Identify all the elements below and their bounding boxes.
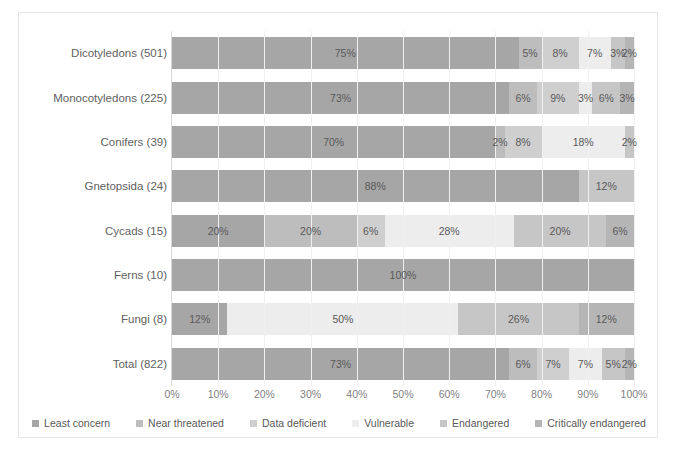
chart-container: Dicotyledons (501)Monocotyledons (225)Co…	[18, 12, 658, 438]
bar-segment-label: 6%	[516, 358, 531, 370]
bar-segment-label: 7%	[578, 358, 593, 370]
bar-segment: 3%	[579, 82, 593, 114]
x-axis-tick-label: 90%	[577, 388, 598, 400]
bar-segment: 2%	[625, 37, 634, 69]
chart-legend: Least concernNear threatenedData deficie…	[19, 411, 659, 435]
gridline	[218, 31, 219, 386]
bar-segment: 6%	[509, 348, 537, 380]
legend-swatch-icon	[136, 420, 143, 427]
bar-segment: 50%	[227, 303, 458, 335]
bar-segment: 8%	[542, 37, 579, 69]
category-label: Cycads (15)	[27, 215, 167, 247]
x-axis-tick-label: 0%	[164, 388, 179, 400]
category-label: Gnetopsida (24)	[27, 170, 167, 202]
bar-segment: 7%	[579, 37, 611, 69]
bar-segment-label: 20%	[550, 225, 571, 237]
x-axis: 0%10%20%30%40%50%60%70%80%90%100%	[172, 388, 634, 406]
bar-segment: 70%	[172, 126, 495, 158]
legend-swatch-icon	[352, 420, 359, 427]
bar-segment-label: 12%	[189, 313, 210, 325]
bar-segment-label: 12%	[596, 313, 617, 325]
bar-segment-label: 70%	[323, 136, 344, 148]
bar-segment-label: 26%	[508, 313, 529, 325]
bar-segment-label: 100%	[390, 269, 417, 281]
x-axis-tick-label: 60%	[439, 388, 460, 400]
bar-segment: 9%	[537, 82, 579, 114]
bar-segment: 3%	[620, 82, 634, 114]
bar-segment-label: 6%	[363, 225, 378, 237]
gridline	[357, 31, 358, 386]
bar-segment-label: 6%	[516, 92, 531, 104]
bar-segment-label: 5%	[606, 358, 621, 370]
bar-segment-label: 3%	[619, 92, 634, 104]
gridline	[542, 31, 543, 386]
legend-item[interactable]: Near threatened	[136, 417, 224, 429]
bar-segment: 75%	[172, 37, 519, 69]
legend-item[interactable]: Endangered	[440, 417, 509, 429]
bar-segment: 18%	[542, 126, 625, 158]
legend-swatch-icon	[535, 420, 542, 427]
gridline	[311, 31, 312, 386]
x-axis-tick-label: 30%	[300, 388, 321, 400]
legend-item[interactable]: Critically endangered	[535, 417, 646, 429]
bar-segment-label: 8%	[516, 136, 531, 148]
bar-segment-label: 12%	[596, 180, 617, 192]
bar-segment-label: 20%	[300, 225, 321, 237]
bar-segment: 7%	[569, 348, 601, 380]
category-label: Fungi (8)	[27, 303, 167, 335]
bar-segment: 2%	[625, 348, 634, 380]
gridline	[403, 31, 404, 386]
bar-segment: 26%	[458, 303, 578, 335]
legend-label: Data deficient	[262, 417, 326, 429]
x-axis-tick-label: 80%	[531, 388, 552, 400]
legend-label: Critically endangered	[547, 417, 646, 429]
legend-item[interactable]: Vulnerable	[352, 417, 414, 429]
legend-swatch-icon	[440, 420, 447, 427]
bar-segment-label: 7%	[546, 358, 561, 370]
bar-segment-label: 2%	[492, 136, 507, 148]
y-axis-category-labels: Dicotyledons (501)Monocotyledons (225)Co…	[19, 31, 167, 386]
legend-swatch-icon	[250, 420, 257, 427]
bar-segment: 6%	[509, 82, 537, 114]
legend-label: Vulnerable	[364, 417, 414, 429]
bar-segment: 5%	[519, 37, 542, 69]
legend-label: Near threatened	[148, 417, 224, 429]
bar-segment-label: 2%	[622, 358, 637, 370]
bar-segment: 6%	[357, 215, 385, 247]
bar-segment-label: 8%	[552, 47, 567, 59]
gridline	[634, 31, 635, 386]
bar-segment: 6%	[592, 82, 620, 114]
bar-segment: 2%	[495, 126, 504, 158]
category-label: Total (822)	[27, 348, 167, 380]
legend-label: Endangered	[452, 417, 509, 429]
legend-item[interactable]: Least concern	[32, 417, 110, 429]
legend-item[interactable]: Data deficient	[250, 417, 326, 429]
legend-label: Least concern	[44, 417, 110, 429]
bar-segment: 2%	[625, 126, 634, 158]
bar-segment: 73%	[172, 82, 509, 114]
gridline	[449, 31, 450, 386]
legend-swatch-icon	[32, 420, 39, 427]
bar-segment-label: 6%	[613, 225, 628, 237]
bar-segment-label: 6%	[599, 92, 614, 104]
x-axis-tick-label: 70%	[485, 388, 506, 400]
bar-segment-label: 73%	[330, 92, 351, 104]
bar-segment: 20%	[514, 215, 606, 247]
gridline	[495, 31, 496, 386]
bar-segment-label: 88%	[365, 180, 386, 192]
bar-segment: 88%	[172, 170, 579, 202]
category-label: Dicotyledons (501)	[27, 37, 167, 69]
bar-segment-label: 9%	[550, 92, 565, 104]
bar-segment-label: 2%	[622, 136, 637, 148]
bar-segment-label: 5%	[522, 47, 537, 59]
bar-segment-label: 2%	[622, 47, 637, 59]
bar-segment-label: 18%	[573, 136, 594, 148]
bar-segment-label: 7%	[587, 47, 602, 59]
gridline	[588, 31, 589, 386]
x-axis-tick-label: 10%	[208, 388, 229, 400]
bar-segment-label: 50%	[332, 313, 353, 325]
x-axis-tick-label: 100%	[621, 388, 648, 400]
bar-segment: 8%	[505, 126, 542, 158]
category-label: Monocotyledons (225)	[27, 82, 167, 114]
category-label: Conifers (39)	[27, 126, 167, 158]
